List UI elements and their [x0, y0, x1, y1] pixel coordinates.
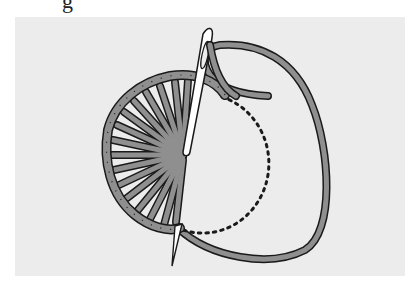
stitch-illustration	[0, 0, 405, 283]
